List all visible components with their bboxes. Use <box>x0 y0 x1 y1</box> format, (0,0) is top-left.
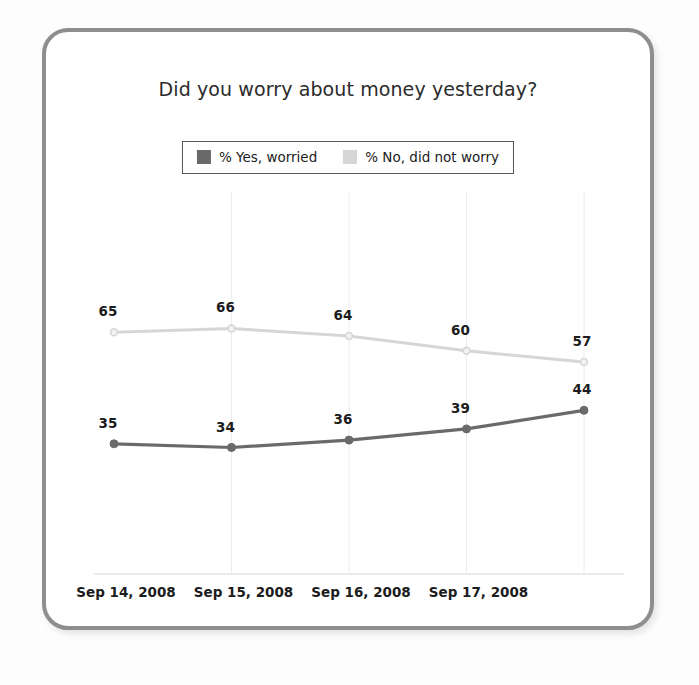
x-axis-tick-label: Sep 17, 2008 <box>429 584 528 600</box>
line-chart-svg: 65666460573534363944 <box>94 192 624 592</box>
data-point[interactable] <box>228 325 235 332</box>
data-label: 39 <box>451 400 470 416</box>
data-label: 44 <box>573 381 592 397</box>
legend-item-yes[interactable]: % Yes, worried <box>197 149 317 165</box>
x-axis-labels: Sep 14, 2008Sep 15, 2008Sep 16, 2008Sep … <box>94 570 624 600</box>
data-label: 65 <box>99 303 118 319</box>
data-label: 60 <box>451 322 470 338</box>
x-axis-tick-label: Sep 14, 2008 <box>76 584 175 600</box>
data-point[interactable] <box>110 440 118 448</box>
data-point[interactable] <box>111 329 118 336</box>
data-point[interactable] <box>345 436 353 444</box>
chart-card: Did you worry about money yesterday? % Y… <box>42 28 654 630</box>
data-point[interactable] <box>580 406 588 414</box>
data-point[interactable] <box>463 425 471 433</box>
legend-swatch-yes-icon <box>197 150 211 164</box>
data-label: 34 <box>216 419 235 435</box>
data-point[interactable] <box>228 444 236 452</box>
data-point[interactable] <box>581 359 588 366</box>
data-point[interactable] <box>463 347 470 354</box>
data-label: 66 <box>216 299 235 315</box>
page-title: Did you worry about money yesterday? <box>46 78 650 100</box>
legend-swatch-no-icon <box>343 150 357 164</box>
legend-label-no: % No, did not worry <box>365 149 499 165</box>
chart-legend: % Yes, worried % No, did not worry <box>182 141 514 174</box>
data-point[interactable] <box>346 333 353 340</box>
data-label: 57 <box>573 333 592 349</box>
x-axis-tick-label: Sep 15, 2008 <box>194 584 293 600</box>
data-label: 64 <box>334 307 353 323</box>
legend-label-yes: % Yes, worried <box>219 149 317 165</box>
plot-area: 65666460573534363944 <box>94 192 624 592</box>
data-label: 36 <box>334 411 353 427</box>
legend-item-no[interactable]: % No, did not worry <box>343 149 499 165</box>
x-axis-tick-label: Sep 16, 2008 <box>311 584 410 600</box>
chart-screenshot: Did you worry about money yesterday? % Y… <box>0 0 699 685</box>
data-label: 35 <box>99 415 118 431</box>
